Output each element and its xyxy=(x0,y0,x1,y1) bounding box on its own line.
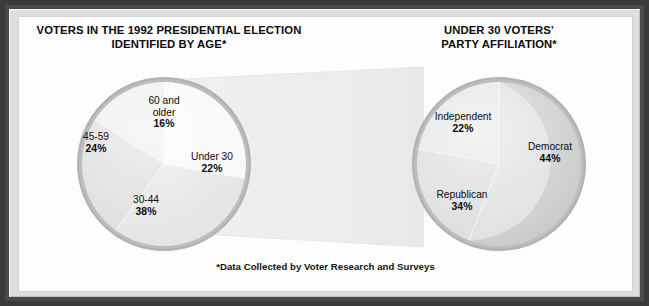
right-label-republican-line1: Republican xyxy=(421,189,503,201)
left-label-60-and-older-value: 16% xyxy=(131,118,197,130)
left-label-45-59-line1: 45-59 xyxy=(65,131,127,143)
left-label-30-44: 30-44 38% xyxy=(115,194,177,217)
right-label-republican-value: 34% xyxy=(421,201,503,213)
right-label-independent-value: 22% xyxy=(419,123,507,135)
chart-panel: VOTERS IN THE 1992 PRESIDENTIAL ELECTION… xyxy=(18,16,633,292)
right-label-democrat-value: 44% xyxy=(511,153,589,165)
left-label-60-and-older-line1: 60 and xyxy=(131,95,197,107)
left-label-60-and-older-line2: older xyxy=(131,107,197,119)
right-label-democrat-line1: Democrat xyxy=(511,141,589,153)
right-label-democrat: Democrat 44% xyxy=(511,141,589,164)
left-label-60-and-older: 60 and older 16% xyxy=(131,95,197,130)
figure-root: VOTERS IN THE 1992 PRESIDENTIAL ELECTION… xyxy=(0,0,649,306)
left-label-45-59-value: 24% xyxy=(65,143,127,155)
right-label-republican: Republican 34% xyxy=(421,189,503,212)
left-label-under-30: Under 30 22% xyxy=(178,151,246,174)
left-label-45-59: 45-59 24% xyxy=(65,131,127,154)
right-label-independent: Independent 22% xyxy=(419,111,507,134)
right-label-independent-line1: Independent xyxy=(419,111,507,123)
left-label-under-30-value: 22% xyxy=(178,163,246,175)
left-label-30-44-line1: 30-44 xyxy=(115,194,177,206)
left-label-under-30-line1: Under 30 xyxy=(178,151,246,163)
left-label-30-44-value: 38% xyxy=(115,206,177,218)
source-footnote: *Data Collected by Voter Research and Su… xyxy=(19,261,632,272)
